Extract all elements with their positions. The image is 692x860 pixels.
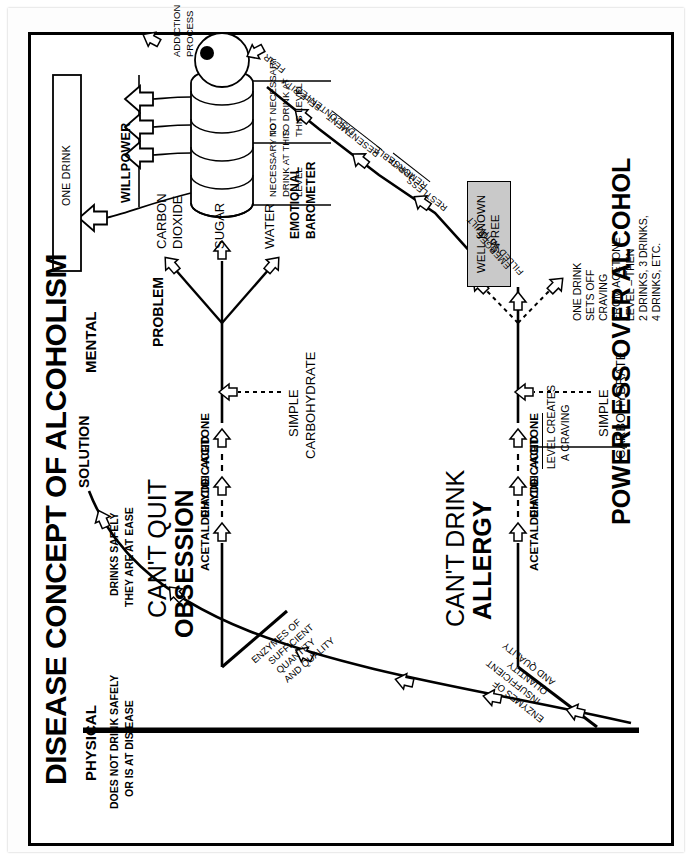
scale-high-2: DRINK AT THIS (280, 130, 292, 197)
craving-note-5: 2 DRINKS, 3 DRINKS, (637, 215, 650, 321)
barometer-label-2: BAROMETER (305, 162, 319, 239)
craving-note-6: 4 DRINKS, ETC. (650, 215, 663, 321)
product-carbon: CARBON (155, 193, 170, 249)
addiction-process-2: PROCESS (184, 11, 196, 57)
product-dioxide: DIOXIDE (171, 196, 186, 249)
mental-caption-1: DRINKS SAFELY (109, 512, 121, 596)
product-water: WATER (263, 204, 278, 250)
stage-upper-line2: OBSESSION (170, 489, 198, 638)
paper-sheet: DISEASE CONCEPT OF ALCOHOLISM PHYSICAL D… (8, 8, 684, 852)
physical-caption-1: DOES NOT DRINK SAFELY (109, 675, 121, 809)
craving-note-0: ONE DRINK (571, 215, 584, 321)
scale-low-2: TO DRINK AT (280, 78, 292, 137)
diagram-canvas: DISEASE CONCEPT OF ALCOHOLISM PHYSICAL D… (31, 35, 671, 843)
diagram-frame: DISEASE CONCEPT OF ALCOHOLISM PHYSICAL D… (28, 32, 674, 846)
carb-upper-2: CARBOHYDRATE (304, 352, 319, 459)
physical-heading: PHYSICAL (83, 705, 100, 781)
enzymes-lower-block: ENZYMES OF INSUFFICIENT QUANTITY AND QUA… (476, 639, 568, 725)
carb-upper-1: SIMPLE (287, 389, 302, 437)
enzymes-upper-block: ENZYMES OF SUFFICIENT QUANTITY AND QUALI… (249, 608, 337, 693)
stage-lower-line2: ALLERGY (468, 501, 496, 620)
footer-banner: POWERLESS OVER ALCOHOL (607, 158, 635, 525)
page-title: DISEASE CONCEPT OF ALCOHOLISM (39, 254, 73, 785)
chem-lower-acetone: ACETONE (528, 413, 543, 469)
addiction-process-1: ADDICTION (171, 5, 183, 57)
acetone-note-2: A CRAVING (559, 405, 572, 461)
solution-label: SOLUTION (77, 416, 93, 488)
mental-heading: MENTAL (83, 312, 100, 373)
product-sugar: SUGAR (213, 203, 228, 249)
mental-caption-2: THEY ARE AT EASE (124, 507, 136, 607)
chem-upper-acetone: ACETONE (199, 413, 212, 469)
scale-low-3: THIS LEVEL (293, 83, 305, 137)
stage-upper-line1: CAN'T QUIT (143, 479, 171, 618)
problem-label: PROBLEM (151, 277, 167, 347)
scale-low-1: NOT NECESSARY (267, 56, 279, 137)
willpower-label: WILLPOWER (119, 123, 133, 203)
stage-lower-line1: CAN'T DRINK (441, 470, 469, 627)
acetone-note-1: LEVEL CREATES (545, 385, 558, 469)
physical-caption-2: OR IS AT DIS-EASE (124, 700, 136, 797)
scale-high-3: LEVEL (293, 167, 305, 197)
one-drink-label: ONE DRINK (61, 145, 73, 206)
diagram-labels: DISEASE CONCEPT OF ALCOHOLISM PHYSICAL D… (31, 35, 671, 843)
screenshot-page: DISEASE CONCEPT OF ALCOHOLISM PHYSICAL D… (0, 0, 692, 860)
craving-note-1: SETS OFF (584, 215, 597, 321)
